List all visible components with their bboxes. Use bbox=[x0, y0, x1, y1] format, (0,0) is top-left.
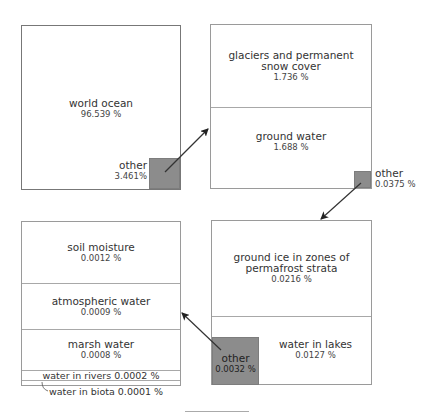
ground-water-value: 1.688 % bbox=[273, 142, 308, 153]
glaciers-name-line2: snow cover bbox=[261, 61, 321, 72]
level2-box: glaciers and permanent snow cover 1.736 … bbox=[210, 24, 372, 189]
glaciers-name-line1: glaciers and permanent bbox=[228, 50, 353, 61]
level3-box: ground ice in zones of permafrost strata… bbox=[211, 220, 372, 385]
other-l1-label: other 3.461% bbox=[115, 160, 147, 182]
other-l2-label: other 0.0375 % bbox=[375, 168, 416, 190]
soil-moisture-name: soil moisture bbox=[67, 242, 134, 253]
bottom-rule bbox=[185, 411, 249, 412]
ground-ice-cell: ground ice in zones of permafrost strata… bbox=[212, 221, 371, 316]
other-l2-square bbox=[354, 171, 371, 188]
atmospheric-water-cell: atmospheric water 0.0009 % bbox=[22, 283, 180, 329]
ground-water-name: ground water bbox=[256, 131, 326, 142]
other-l2-name: other bbox=[375, 168, 416, 179]
soil-moisture-value: 0.0012 % bbox=[81, 253, 122, 264]
glaciers-value: 1.736 % bbox=[273, 72, 308, 83]
soil-moisture-cell: soil moisture 0.0012 % bbox=[22, 222, 180, 283]
ground-ice-value: 0.0216 % bbox=[271, 274, 312, 285]
other-l3-value: 0.0032 % bbox=[215, 364, 256, 375]
atmospheric-water-name: atmospheric water bbox=[52, 296, 151, 307]
other-l1-name: other bbox=[115, 160, 147, 171]
water-in-lakes-value: 0.0127 % bbox=[295, 350, 336, 361]
world-ocean-name: world ocean bbox=[22, 98, 180, 109]
marsh-water-name: marsh water bbox=[68, 339, 134, 350]
level4-box: soil moisture 0.0012 % atmospheric water… bbox=[21, 221, 181, 386]
atmospheric-water-value: 0.0009 % bbox=[81, 307, 122, 318]
water-in-lakes-name: water in lakes bbox=[279, 339, 352, 350]
other-l1-square bbox=[149, 158, 180, 189]
world-ocean-label: world ocean 96.539 % bbox=[22, 98, 180, 120]
water-in-biota-cell bbox=[22, 380, 180, 385]
world-ocean-value: 96.539 % bbox=[22, 109, 180, 120]
other-l3-name: other bbox=[222, 353, 250, 364]
marsh-water-value: 0.0008 % bbox=[81, 350, 122, 361]
other-l3-square: other 0.0032 % bbox=[212, 337, 259, 385]
world-ocean-box: world ocean 96.539 % other 3.461% bbox=[21, 25, 181, 190]
water-in-rivers-label: water in rivers 0.0002 % bbox=[43, 371, 160, 381]
water-in-rivers-cell: water in rivers 0.0002 % bbox=[22, 370, 180, 380]
ground-ice-name-line2: permafrost strata bbox=[246, 263, 338, 274]
marsh-water-cell: marsh water 0.0008 % bbox=[22, 329, 180, 370]
other-l1-value: 3.461% bbox=[115, 171, 147, 182]
water-in-biota-label: water in biota 0.0001 % bbox=[49, 386, 163, 397]
glaciers-cell: glaciers and permanent snow cover 1.736 … bbox=[211, 25, 371, 107]
other-l2-value: 0.0375 % bbox=[375, 179, 416, 190]
ground-water-cell: ground water 1.688 % bbox=[211, 107, 371, 171]
